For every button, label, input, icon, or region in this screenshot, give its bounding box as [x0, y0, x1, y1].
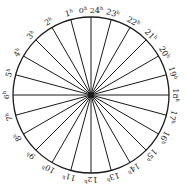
hour-label-3: 3h [24, 28, 37, 41]
spoke-5 [16, 75, 91, 95]
hour-label-12: 12h [84, 176, 98, 186]
hour-label-6: 6h [1, 90, 11, 99]
center-hub [89, 93, 93, 97]
hour-label-23: 23h [105, 6, 121, 19]
hour-label-17: 17h [167, 109, 180, 125]
spoke-13 [91, 95, 111, 170]
spoke-17 [91, 95, 166, 115]
hour-label-7: 7h [3, 111, 15, 122]
hour-label-4: 4h [11, 46, 24, 59]
hour-label-18: 18h [172, 88, 182, 102]
hour-dial-diagram: 0h 24h1h2h3h4h5h6h7h8h9h10h11h12h13h14h1… [0, 0, 186, 193]
spoke-23 [91, 20, 111, 95]
hour-label-19: 19h [167, 65, 180, 81]
spoke-11 [71, 95, 91, 170]
hour-label-11: 11h [60, 171, 76, 184]
hour-label-9: 9h [24, 148, 37, 161]
hour-label-2: 2h [42, 15, 55, 28]
hour-label-8: 8h [11, 131, 24, 144]
hour-label-0: 0h 24h [79, 5, 104, 15]
spoke-7 [16, 95, 91, 115]
spoke-1 [71, 20, 91, 95]
hour-label-5: 5h [3, 67, 15, 78]
hour-label-13: 13h [105, 171, 121, 184]
hour-label-1: 1h [64, 7, 75, 19]
spoke-19 [91, 75, 166, 95]
